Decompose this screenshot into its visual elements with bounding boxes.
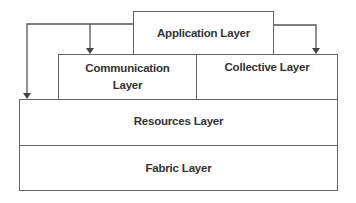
arrow-application-to-resources (27, 24, 133, 94)
arrowhead-icon (312, 48, 320, 54)
arrow-application-to-collective (274, 25, 316, 49)
arrowhead-icon (86, 48, 94, 54)
arrowhead-icon (23, 93, 31, 99)
connector-arrows (0, 0, 356, 203)
